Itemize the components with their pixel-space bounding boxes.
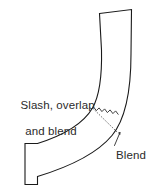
slash-label-line-2: and blend [6,125,96,138]
slash-label-line-1: Slash, overlap [20,99,94,111]
slash-overlap-blend-label: Slash, overlap and blend [6,86,96,164]
blend-leader-line [115,133,121,146]
diagram-canvas: Slash, overlap and blend Blend [0,0,162,192]
blend-label: Blend [116,149,146,162]
